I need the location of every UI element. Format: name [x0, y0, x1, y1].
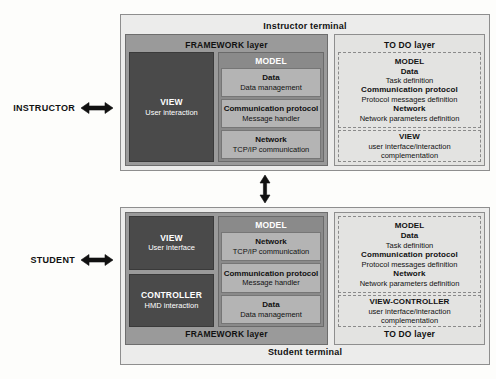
- instructor-todo-body: MODEL Data Task definition Communication…: [338, 52, 481, 162]
- student-layers-row: VIEW User interface CONTROLLER HMD inter…: [125, 212, 485, 345]
- instructor-model-item-subtitle: Message handler: [242, 114, 300, 123]
- student-model-item-title: Data: [262, 300, 279, 310]
- todo-line: user interface/interaction: [368, 142, 450, 151]
- todo-line: Data: [401, 67, 419, 77]
- student-todo-layer-title: TO DO layer: [338, 327, 481, 341]
- student-model-item-title: Network: [255, 237, 287, 247]
- student-framework-left-column: VIEW User interface CONTROLLER HMD inter…: [129, 216, 214, 327]
- instructor-model-item-data: Data Data management: [221, 68, 321, 97]
- instructor-model-title: MODEL: [221, 55, 321, 68]
- todo-line: Data: [401, 231, 419, 241]
- student-terminal: VIEW User interface CONTROLLER HMD inter…: [120, 207, 490, 365]
- todo-line: Task definition: [386, 241, 434, 250]
- todo-line: Protocol messages definition: [362, 260, 458, 269]
- todo-line: Network: [393, 104, 425, 114]
- instructor-model-item-subtitle: TCP/IP communication: [233, 145, 310, 154]
- student-model-title: MODEL: [221, 219, 321, 232]
- student-model-item-network: Network TCP/IP communication: [221, 232, 321, 261]
- student-model-item-subtitle: TCP/IP communication: [233, 247, 310, 256]
- instructor-view-title: VIEW: [160, 97, 183, 108]
- student-model-item-subtitle: Data management: [240, 310, 302, 319]
- student-model-item-subtitle: Message handler: [242, 278, 300, 287]
- double-headed-vertical-arrow-icon: [258, 174, 272, 204]
- student-view-title: VIEW: [160, 233, 183, 244]
- student-controller-box: CONTROLLER HMD interaction: [129, 274, 214, 328]
- instructor-model-item-title: Communication protocol: [224, 104, 319, 114]
- actor-instructor: INSTRUCTOR: [0, 101, 118, 115]
- student-model-item-data: Data Data management: [221, 295, 321, 324]
- student-terminal-title: Student terminal: [125, 345, 485, 360]
- instructor-model-item-network: Network TCP/IP communication: [221, 130, 321, 159]
- student-framework-layer-title: FRAMEWORK layer: [129, 327, 324, 341]
- actor-student: STUDENT: [0, 253, 118, 267]
- todo-line: Network parameters definition: [360, 279, 460, 288]
- student-model-item-title: Communication protocol: [224, 269, 319, 279]
- instructor-layers-row: FRAMEWORK layer VIEW User interaction MO…: [125, 34, 485, 166]
- student-model-box: MODEL Network TCP/IP communication Commu…: [218, 216, 324, 327]
- student-todo-model-group: MODEL Data Task definition Communication…: [338, 216, 481, 293]
- actor-student-label: STUDENT: [30, 255, 75, 265]
- instructor-todo-model-group: MODEL Data Task definition Communication…: [338, 52, 481, 128]
- student-view-subtitle: User interface: [148, 243, 195, 252]
- instructor-view-subtitle: User interaction: [145, 108, 198, 117]
- student-model-item-communication-protocol: Communication protocol Message handler: [221, 263, 321, 292]
- todo-line: VIEW-CONTROLLER: [370, 297, 450, 307]
- instructor-model-items: Data Data management Communication proto…: [221, 68, 321, 159]
- instructor-todo-layer: TO DO layer MODEL Data Task definition C…: [334, 34, 485, 166]
- instructor-terminal-title: Instructor terminal: [125, 19, 485, 34]
- student-view-box: VIEW User interface: [129, 216, 214, 270]
- todo-line: complementation: [381, 316, 438, 325]
- double-headed-horizontal-arrow-icon: [80, 253, 114, 267]
- todo-line: Task definition: [386, 76, 434, 85]
- instructor-view-box: VIEW User interaction: [129, 52, 214, 162]
- instructor-framework-body: VIEW User interaction MODEL Data Data ma…: [129, 52, 324, 162]
- instructor-framework-layer-title: FRAMEWORK layer: [129, 38, 324, 52]
- student-todo-body: MODEL Data Task definition Communication…: [338, 216, 481, 327]
- student-todo-view-controller-group: VIEW-CONTROLLER user interface/interacti…: [338, 295, 481, 327]
- todo-line: Communication protocol: [361, 250, 458, 260]
- instructor-terminal: Instructor terminal FRAMEWORK layer VIEW…: [120, 14, 490, 171]
- student-controller-subtitle: HMD interaction: [145, 301, 199, 310]
- todo-line: MODEL: [395, 57, 424, 67]
- instructor-framework-left-column: VIEW User interaction: [129, 52, 214, 162]
- todo-line: VIEW: [399, 132, 420, 142]
- todo-line: Network: [393, 269, 425, 279]
- todo-line: Communication protocol: [361, 85, 458, 95]
- todo-line: Network parameters definition: [360, 114, 460, 123]
- todo-line: user interface/interaction: [368, 307, 450, 316]
- todo-line: MODEL: [395, 221, 424, 231]
- student-framework-layer: VIEW User interface CONTROLLER HMD inter…: [125, 212, 328, 345]
- instructor-model-item-communication-protocol: Communication protocol Message handler: [221, 99, 321, 128]
- instructor-framework-layer: FRAMEWORK layer VIEW User interaction MO…: [125, 34, 328, 166]
- student-controller-title: CONTROLLER: [141, 290, 202, 301]
- todo-line: Protocol messages definition: [362, 95, 458, 104]
- instructor-model-item-subtitle: Data management: [240, 83, 302, 92]
- student-todo-layer: MODEL Data Task definition Communication…: [334, 212, 485, 345]
- instructor-todo-layer-title: TO DO layer: [338, 38, 481, 52]
- todo-line: complementation: [381, 151, 438, 160]
- instructor-model-box: MODEL Data Data management Communication…: [218, 52, 324, 162]
- instructor-model-item-title: Network: [255, 135, 287, 145]
- double-headed-horizontal-arrow-icon: [80, 101, 114, 115]
- instructor-todo-view-group: VIEW user interface/interaction compleme…: [338, 130, 481, 162]
- instructor-model-item-title: Data: [262, 73, 279, 83]
- student-framework-body: VIEW User interface CONTROLLER HMD inter…: [129, 216, 324, 327]
- student-model-items: Network TCP/IP communication Communicati…: [221, 232, 321, 324]
- actor-instructor-label: INSTRUCTOR: [13, 103, 75, 113]
